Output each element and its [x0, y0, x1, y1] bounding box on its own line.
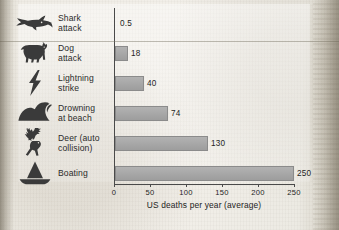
- bar-deer-auto-collision: [115, 136, 208, 151]
- label-line-1: Lightning: [58, 73, 114, 83]
- deer-icon: [14, 128, 56, 158]
- label-line-2: attack: [58, 53, 114, 63]
- bar-drowning-at-beach: [115, 106, 168, 121]
- label-line-2: attack: [58, 23, 114, 33]
- label-line-1: Deer (auto: [58, 133, 114, 143]
- x-tick-label-100: 100: [179, 188, 192, 197]
- y-axis-line: [114, 8, 115, 184]
- x-tick-label-150: 150: [215, 188, 228, 197]
- label-line-1: Boating: [58, 168, 114, 178]
- label-line-1: Shark: [58, 13, 114, 23]
- bar-value-boating: 250: [297, 166, 311, 181]
- wave-icon: [14, 98, 56, 128]
- label-line-2: collision): [58, 143, 114, 153]
- shark-icon: [14, 8, 56, 38]
- x-tick-100: [186, 184, 187, 187]
- bar-value-lightning-strike: 40: [147, 76, 157, 91]
- bar-value-dog-attack: 18: [131, 46, 141, 61]
- x-tick-label-0: 0: [112, 188, 116, 197]
- deaths-per-year-bar-chart: Shark attack 0.5 Dog attack 18: [0, 0, 339, 230]
- category-label-deer-auto-collision: Deer (auto collision): [58, 128, 114, 158]
- lightning-bolt-icon: [14, 68, 56, 98]
- scanned-page-background: Shark attack 0.5 Dog attack 18: [0, 0, 339, 230]
- bar-boating: [115, 166, 294, 181]
- category-label-boating: Boating: [58, 158, 114, 188]
- bar-value-drowning-at-beach: 74: [171, 106, 181, 121]
- bar-value-shark-attack: 0.5: [120, 16, 132, 31]
- dog-icon: [14, 38, 56, 68]
- x-tick-label-200: 200: [251, 188, 264, 197]
- bar-value-deer-auto-collision: 130: [211, 136, 225, 151]
- category-label-shark-attack: Shark attack: [58, 8, 114, 38]
- category-label-lightning-strike: Lightning strike: [58, 68, 114, 98]
- page-scan-rule: [0, 41, 339, 42]
- x-tick-0: [114, 184, 115, 187]
- category-label-dog-attack: Dog attack: [58, 38, 114, 68]
- label-line-1: Drowning: [58, 103, 114, 113]
- label-line-2: strike: [58, 83, 114, 93]
- x-tick-250: [294, 184, 295, 187]
- page-gutter-shadow-left: [0, 0, 14, 230]
- page-edge-shadow-right: [313, 0, 339, 230]
- bar-dog-attack: [115, 46, 128, 61]
- x-tick-label-250: 250: [287, 188, 300, 197]
- x-tick-200: [258, 184, 259, 187]
- sailboat-icon: [14, 158, 56, 188]
- bar-lightning-strike: [115, 76, 144, 91]
- x-axis-label: US deaths per year (average): [114, 200, 294, 210]
- label-line-2: at beach: [58, 113, 114, 123]
- x-axis-line: [114, 184, 294, 185]
- x-tick-label-50: 50: [146, 188, 155, 197]
- label-line-1: Dog: [58, 43, 114, 53]
- x-tick-150: [222, 184, 223, 187]
- category-label-drowning-at-beach: Drowning at beach: [58, 98, 114, 128]
- x-tick-50: [150, 184, 151, 187]
